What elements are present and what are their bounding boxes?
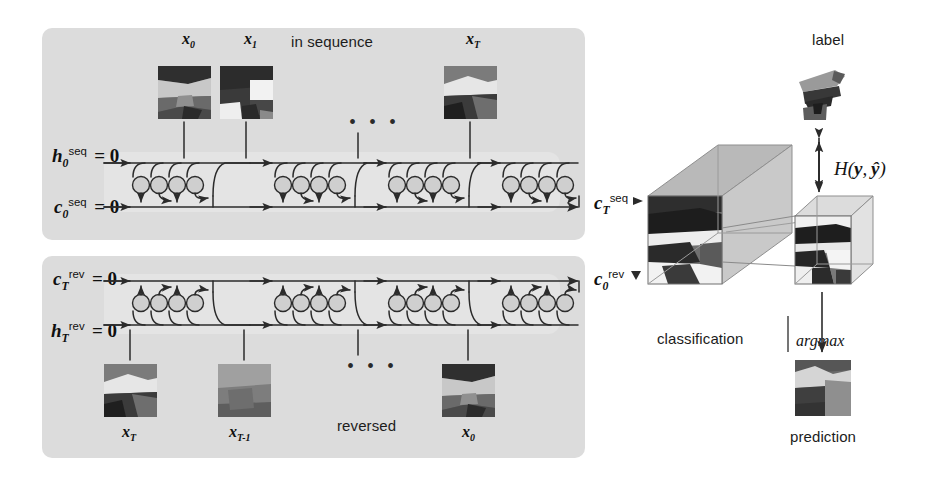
bottom-input-thumb-T (104, 364, 157, 417)
cuboid-connector-lines (722, 216, 800, 266)
bottom-output-label: c0rev (594, 268, 624, 290)
top-input-label-T: xT (466, 30, 480, 48)
bottom-lstm-strip (104, 274, 560, 334)
top-sequence-ellipsis: • • • (349, 111, 400, 134)
bottom-input-thumb-0 (442, 364, 495, 417)
prediction-thumbnail (795, 360, 851, 416)
bottom-state-label-c: cTrev = 0 (53, 268, 117, 290)
top-output-pointer (633, 197, 643, 205)
bottom-output-pointer (631, 271, 641, 280)
bottom-input-thumb-T-1 (218, 364, 271, 417)
top-input-label-1: x1 (244, 30, 257, 48)
top-lstm-strip (104, 152, 560, 212)
classification-cuboid (648, 145, 792, 284)
loss-label: H(y, ŷ) (834, 158, 886, 180)
argmax-caption: argmax (796, 332, 844, 350)
top-input-thumb-T (444, 66, 497, 119)
bottom-input-label-0: x0 (462, 423, 475, 441)
bottom-sequence-ellipsis: • • • (347, 355, 398, 378)
top-input-thumb-0 (158, 66, 211, 119)
top-input-thumb-1 (220, 66, 273, 119)
top-input-label-0: x0 (182, 30, 195, 48)
top-state-label-h: h0seq = 0 (52, 145, 119, 167)
top-state-label-c: c0seq = 0 (54, 196, 119, 218)
top-panel-caption: in sequence (291, 33, 373, 50)
prediction-caption: prediction (790, 428, 856, 445)
bottom-input-label-T: xT (122, 423, 136, 441)
output-cube (795, 196, 873, 284)
bottom-input-label-T-1: xT-1 (229, 423, 250, 441)
classification-caption: classification (657, 330, 743, 347)
label-caption: label (812, 31, 844, 48)
figure-canvas: in sequence x0 x1 xT (0, 0, 944, 477)
bottom-state-label-h: hTrev = 0 (51, 320, 117, 342)
top-output-label: cTseq (594, 192, 628, 214)
label-thumbnail (793, 62, 851, 124)
bottom-panel-caption: reversed (337, 417, 396, 434)
